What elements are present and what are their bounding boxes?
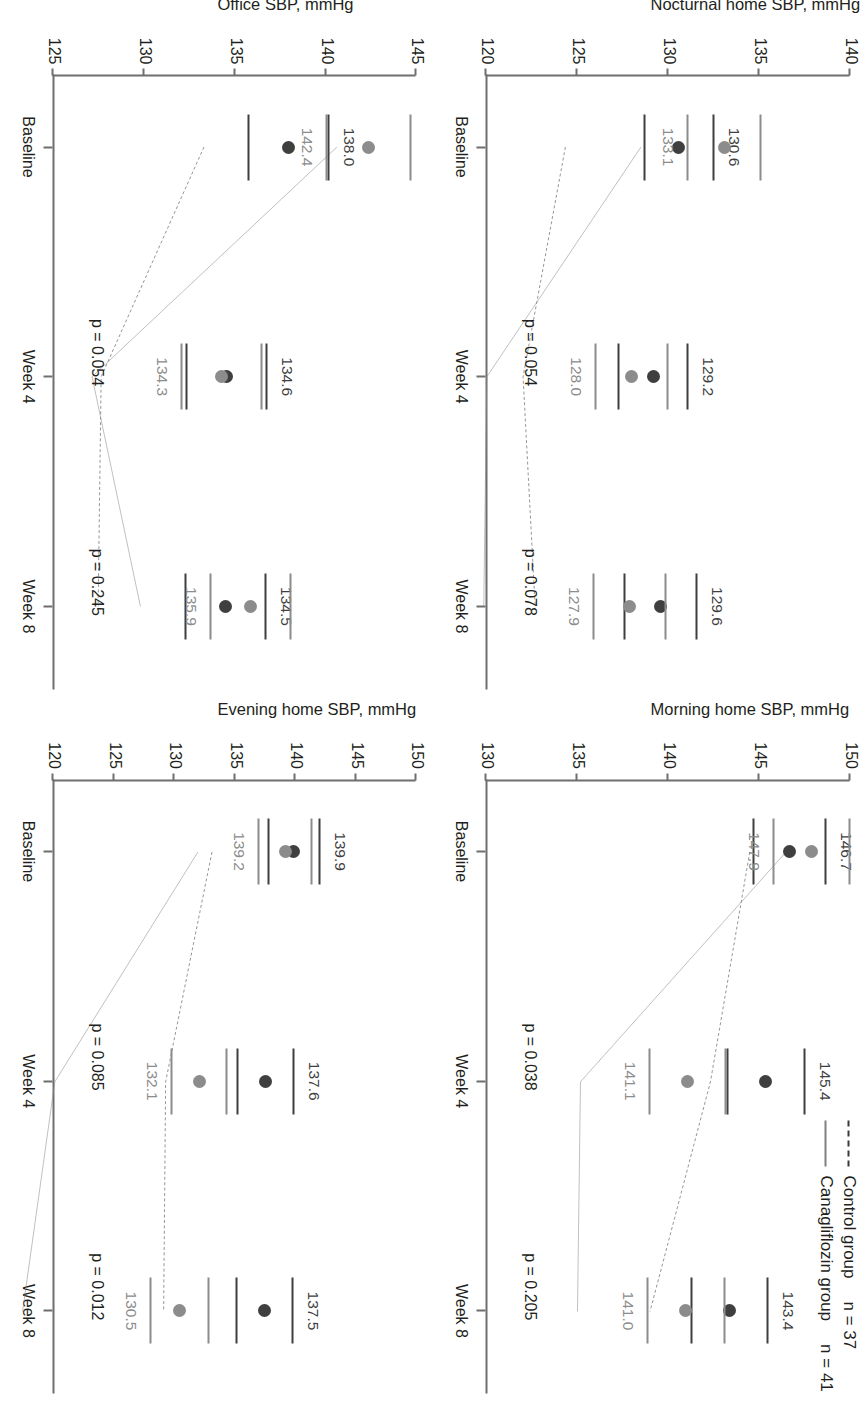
y-tick-label: 140 <box>286 742 304 769</box>
data-point-marker <box>218 599 231 612</box>
error-bar-cap <box>824 818 826 884</box>
p-value-annotation: p = 0.205 <box>520 1253 538 1320</box>
y-tick-label: 140 <box>659 742 677 769</box>
y-tick-label: 140 <box>317 37 335 64</box>
p-value-annotation: p = 0.085 <box>87 1023 105 1090</box>
error-bar-cap <box>848 818 850 884</box>
data-point-marker <box>278 845 291 858</box>
plot-morning: Morning home SBP, mmHg150145140135130Bas… <box>434 705 867 1409</box>
data-point-marker <box>282 140 295 153</box>
y-tick-label: 140 <box>841 37 859 64</box>
data-point-label: 142.4 <box>297 127 315 166</box>
data-point-label: 128.0 <box>566 357 584 396</box>
data-point-label: 141.0 <box>618 1291 636 1330</box>
error-bar-cap <box>264 573 266 639</box>
data-point-label: 137.5 <box>303 1291 321 1330</box>
plot-evening: Evening home SBP, mmHg150145140135130125… <box>0 705 434 1409</box>
legend-dashed-line-icon <box>847 1120 849 1166</box>
data-point-marker <box>624 370 637 383</box>
data-point-marker <box>173 1304 186 1317</box>
legend-n-control: n = 37 <box>836 1301 859 1349</box>
y-tick-label: 145 <box>408 37 426 64</box>
y-tick-label: 135 <box>226 37 244 64</box>
error-bar-cap <box>209 573 211 639</box>
y-tick-label: 130 <box>478 742 496 769</box>
y-tick-label: 145 <box>347 742 365 769</box>
data-point-marker <box>646 370 659 383</box>
error-bar-cap <box>265 343 267 409</box>
error-bar-cap <box>712 114 714 180</box>
data-point-marker <box>215 370 228 383</box>
markers-layer: 130.6129.2129.6133.1128.0127.9p = 0.054p… <box>486 74 850 679</box>
error-bar-cap <box>225 1048 227 1114</box>
error-bar-cap <box>648 1048 650 1114</box>
p-value-annotation: p = 0.078 <box>520 548 538 615</box>
error-bar-cap <box>759 114 761 180</box>
panel-office: Office SBP, mmHg145140135130125BaselineW… <box>0 0 434 705</box>
data-point-marker <box>804 845 817 858</box>
plot-nocturnal: Nocturnal home SBP, mmHg140135130125120B… <box>434 0 867 705</box>
data-point-marker <box>783 845 796 858</box>
error-bar-cap <box>646 1277 648 1343</box>
data-point-label: 139.2 <box>229 832 247 871</box>
y-tick-label: 130 <box>659 37 677 64</box>
legend-item-canagliflozin: Canagliflozin group n = 41 <box>813 1120 836 1391</box>
legend: Control group n = 37 Canagliflozin group… <box>813 1120 859 1391</box>
error-bar-cap <box>180 343 182 409</box>
panel-nocturnal: Nocturnal home SBP, mmHg140135130125120B… <box>434 0 867 705</box>
error-bar-cap <box>409 114 411 180</box>
y-axis-label: Office SBP, mmHg <box>217 0 353 14</box>
y-tick-label: 130 <box>135 37 153 64</box>
y-tick-label: 135 <box>750 37 768 64</box>
plot-office: Office SBP, mmHg145140135130125BaselineW… <box>0 0 434 705</box>
error-bar-cap <box>594 343 596 409</box>
data-point-label: 134.6 <box>277 357 295 396</box>
legend-solid-line-icon <box>824 1120 826 1166</box>
error-bar-cap <box>260 343 262 409</box>
error-bar-cap <box>267 818 269 884</box>
error-bar-cap <box>247 114 249 180</box>
error-bar-cap <box>149 1277 151 1343</box>
error-bar-cap <box>686 343 688 409</box>
figure-stage: Nocturnal home SBP, mmHg140135130125120B… <box>0 0 867 1409</box>
y-axis-label: Nocturnal home SBP, mmHg <box>650 0 860 14</box>
error-bar-cap <box>592 573 594 639</box>
data-point-label: 134.3 <box>152 357 170 396</box>
error-bar-cap <box>723 1277 725 1343</box>
axis-area: 150145140135130125120BaselineWeek 4Week … <box>52 779 416 1384</box>
error-bar-cap <box>766 1277 768 1343</box>
data-point-label: 130.5 <box>121 1291 139 1330</box>
legend-label-control: Control group <box>836 1175 859 1278</box>
error-bar-cap <box>292 1048 294 1114</box>
data-point-label: 132.1 <box>142 1061 160 1100</box>
data-point-marker <box>362 140 375 153</box>
p-value-annotation: p = 0.054 <box>87 318 105 385</box>
data-point-marker <box>244 599 257 612</box>
panel-evening: Evening home SBP, mmHg150145140135130125… <box>0 705 434 1409</box>
y-tick-label: 125 <box>568 37 586 64</box>
data-point-label: 141.1 <box>620 1061 638 1100</box>
error-bar-cap <box>803 1048 805 1114</box>
y-tick-label: 130 <box>165 742 183 769</box>
error-bar-cap <box>772 818 774 884</box>
error-bar-cap <box>291 1277 293 1343</box>
y-axis-label: Evening home SBP, mmHg <box>217 699 416 718</box>
data-point-label: 147.9 <box>744 832 762 871</box>
data-point-marker <box>623 599 636 612</box>
error-bar-cap <box>318 818 320 884</box>
legend-item-control: Control group n = 37 <box>836 1120 859 1391</box>
y-tick-label: 125 <box>105 742 123 769</box>
y-tick-label: 145 <box>750 742 768 769</box>
axis-area: 150145140135130BaselineWeek 4Week 8146.7… <box>486 779 850 1384</box>
data-point-marker <box>258 1304 271 1317</box>
legend-n-canagliflozin: n = 41 <box>813 1344 836 1392</box>
y-tick-label: 120 <box>44 742 62 769</box>
y-axis-label: Morning home SBP, mmHg <box>650 699 849 718</box>
data-point-marker <box>717 140 730 153</box>
y-tick-label: 135 <box>226 742 244 769</box>
error-bar-cap <box>666 343 668 409</box>
error-bar-cap <box>686 114 688 180</box>
y-tick-label: 150 <box>841 742 859 769</box>
data-point-label: 143.4 <box>778 1291 796 1330</box>
p-value-annotation: p = 0.054 <box>520 318 538 385</box>
